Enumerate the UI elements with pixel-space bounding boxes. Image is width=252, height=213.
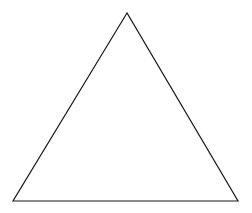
triangle-shape [13, 13, 238, 201]
triangle-diagram [0, 0, 252, 213]
diagram-canvas [0, 0, 252, 213]
